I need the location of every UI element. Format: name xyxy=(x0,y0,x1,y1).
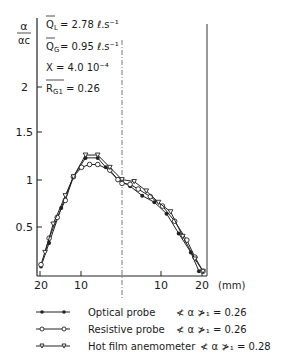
data-point-marker xyxy=(168,210,173,214)
data-point-marker xyxy=(140,194,144,198)
y-axis-label: α αc xyxy=(17,20,31,46)
y-tick-1: 1 xyxy=(26,174,33,187)
annotation-ql: = 2.78 ℓ.s⁻¹ xyxy=(60,19,119,30)
x-tick-20-right: 20 xyxy=(195,279,209,292)
svg-text:≮ α ≯₁ = 0.26: ≮ α ≯₁ = 0.26 xyxy=(176,324,247,335)
x-unit: (mm) xyxy=(218,280,245,291)
annotations: QL = 2.78 ℓ.s⁻¹ QG = 0.95 ℓ.s⁻¹ X = 4.0 … xyxy=(46,16,119,96)
data-point-marker xyxy=(87,162,92,167)
svg-text:α: α xyxy=(20,20,27,33)
data-point-marker xyxy=(136,187,141,192)
data-point-marker xyxy=(39,262,44,267)
y-ticks xyxy=(37,87,42,227)
svg-text:QG: QG xyxy=(46,41,59,54)
annotation-x: X = 4.0 10⁻⁴ xyxy=(46,62,109,73)
data-point-marker xyxy=(95,162,100,167)
svg-text:RG1: RG1 xyxy=(46,83,63,96)
svg-text:Hot film anemometer: Hot film anemometer xyxy=(88,341,196,352)
x-tick-10-right: 10 xyxy=(154,279,168,292)
svg-text:Resistive probe: Resistive probe xyxy=(88,324,165,335)
legend-item-hotfilm: Hot film anemometer ≮ α ≯₁ = 0.28 xyxy=(36,341,271,352)
series-line-2 xyxy=(45,155,203,271)
y-tick-0-5: 0.5 xyxy=(16,221,34,234)
x-tick-20-left: 20 xyxy=(34,279,48,292)
data-point-marker xyxy=(128,182,133,187)
annotation-rg: = 0.26 xyxy=(66,83,100,94)
series-line-0 xyxy=(41,158,199,271)
data-point-marker xyxy=(83,153,88,157)
svg-text:Optical probe: Optical probe xyxy=(88,307,155,318)
svg-text:αc: αc xyxy=(18,35,30,46)
data-point-marker xyxy=(43,250,48,254)
svg-text:QL: QL xyxy=(46,19,58,32)
y-tick-2: 2 xyxy=(21,81,28,94)
legend-item-optical: Optical probe ≮ α ≯₁ = 0.26 xyxy=(36,307,247,318)
svg-text:≮ α ≯₁ = 0.26: ≮ α ≯₁ = 0.26 xyxy=(176,307,247,318)
svg-text:≮ α ≯₁ = 0.28: ≮ α ≯₁ = 0.28 xyxy=(200,341,271,352)
x-tick-10-left: 10 xyxy=(74,279,88,292)
x-ticks xyxy=(40,271,202,276)
annotation-qg: = 0.95 ℓ.s⁻¹ xyxy=(60,41,119,52)
legend: Optical probe ≮ α ≯₁ = 0.26 Resistive pr… xyxy=(36,307,271,352)
legend-item-resistive: Resistive probe ≮ α ≯₁ = 0.26 xyxy=(36,324,247,335)
y-tick-1-5: 1.5 xyxy=(16,126,34,139)
chart: 2 1.5 1 0.5 20 10 10 20 (mm) α αc QL = 2… xyxy=(0,0,283,363)
